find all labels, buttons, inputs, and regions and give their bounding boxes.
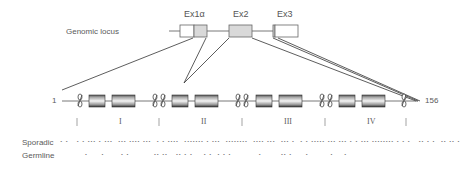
domain-repeat-i-b: [112, 95, 135, 107]
genomic-locus: [169, 25, 298, 37]
break-mark-icon: [161, 94, 165, 107]
repeat-label-iii: III: [284, 118, 292, 126]
break-mark-icon: [402, 94, 406, 107]
repeat-label-i: I: [119, 118, 122, 126]
exon-ex3-utr: [275, 25, 298, 37]
break-mark-icon: [320, 94, 324, 107]
break-mark-icon: [244, 94, 248, 107]
domain-repeat-ii-a: [172, 95, 188, 107]
break-mark-icon: [78, 94, 82, 107]
break-mark-icon: [153, 94, 157, 107]
domain-repeat-i-a: [89, 95, 105, 107]
repeat-label-ii: II: [201, 118, 206, 126]
sporadic-mutation-markers: • • • • ••• • ••• ••• •••• ••• • • •••• …: [60, 140, 460, 144]
domain-repeat-iii-b: [279, 95, 302, 107]
domain-repeat-ii-b: [195, 95, 218, 107]
sporadic-label: Sporadic: [22, 139, 54, 147]
repeat-boundaries: [77, 118, 406, 126]
domain-repeat-iii-a: [256, 95, 272, 107]
projection-lines: [62, 38, 420, 101]
exon-ex2: [229, 25, 252, 37]
protein-end-label: 156: [425, 97, 438, 105]
exon-ex1a-coding: [194, 25, 207, 37]
break-mark-icon: [328, 94, 332, 107]
germline-mutation-markers: • • • • •• •• •• • • • • • • • • •• • • …: [60, 153, 347, 157]
repeat-label-iv: IV: [367, 118, 375, 126]
germline-label: Germline: [22, 152, 54, 160]
exon-ex1a-utr: [180, 25, 194, 37]
domain-repeat-iv-a: [339, 95, 355, 107]
domain-repeat-iv-b: [362, 95, 385, 107]
break-mark-icon: [236, 94, 240, 107]
protein-start-label: 1: [52, 97, 56, 105]
